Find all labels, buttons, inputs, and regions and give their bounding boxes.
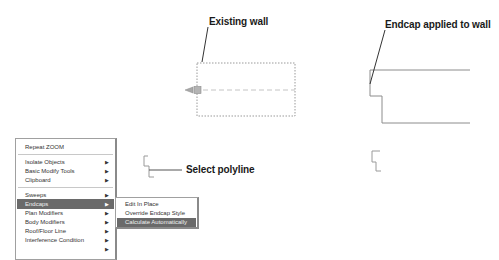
menu-separator (18, 187, 113, 188)
menu-item-label: Plan Modifiers (25, 210, 63, 216)
menu-item-label: Body Modifiers (25, 219, 65, 225)
menu-item-label: Repeat ZOOM (25, 144, 64, 150)
submenu-arrow-icon: ▶ (105, 244, 109, 254)
endcap-leader (370, 30, 385, 84)
menu-separator (18, 154, 113, 155)
endcaps-submenu: Edit In Place Override Endcap Style Calc… (115, 197, 199, 229)
menu-item-label: Basic Modify Tools (25, 168, 75, 174)
submenu-arrow-icon: ▶ (105, 175, 109, 185)
menu-item-label: Clipboard (25, 177, 51, 183)
menu-item-label: Interference Condition (25, 237, 84, 243)
submenu-item-calculate-automatically[interactable]: Calculate Automatically (117, 218, 196, 227)
lengthen-grip-arrow-icon[interactable] (185, 87, 193, 93)
callout-select-polyline: Select polyline (186, 164, 255, 175)
location-grip-square-icon[interactable] (194, 87, 201, 94)
menu-item-label: Isolate Objects (25, 159, 65, 165)
submenu-item-override-endcap-style[interactable]: Override Endcap Style (117, 209, 196, 218)
callout-existing-wall: Existing wall (209, 16, 268, 27)
menu-item-label: Roof/Floor Line (25, 228, 66, 234)
menu-item-clipboard[interactable]: Clipboard ▶ (17, 175, 114, 185)
menu-item-label: Endcaps (25, 201, 48, 207)
wall-end-grip[interactable] (185, 87, 201, 94)
submenu-item-edit-in-place[interactable]: Edit In Place (117, 200, 196, 209)
existing-wall-leader (202, 27, 208, 62)
menu-item-repeat-zoom[interactable]: Repeat ZOOM (17, 142, 114, 152)
wall-with-endcap[interactable] (370, 70, 470, 123)
submenu-item-label: Calculate Automatically (125, 219, 187, 225)
selected-polyline[interactable] (144, 156, 154, 177)
menu-item-more[interactable]: ▶ (17, 244, 114, 254)
existing-wall[interactable] (197, 63, 295, 116)
submenu-item-label: Edit In Place (125, 201, 159, 207)
context-menu: Repeat ZOOM Isolate Objects ▶ Basic Modi… (15, 138, 117, 260)
submenu-item-label: Override Endcap Style (125, 210, 185, 216)
callout-endcap-applied: Endcap applied to wall (385, 19, 491, 30)
endcap-polyline-result (372, 151, 381, 171)
menu-item-label: Sweeps (25, 192, 46, 198)
